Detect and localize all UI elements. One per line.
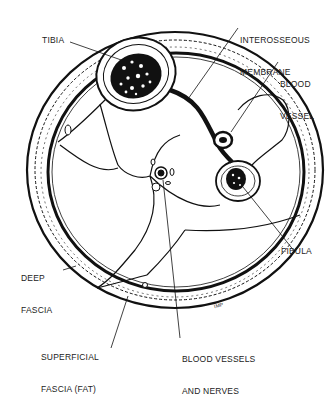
deep-fascia (48, 53, 304, 291)
label-interosseous-line1: INTEROSSEOUS (240, 35, 310, 46)
blood-vessel (214, 132, 232, 148)
label-blood-vessels-nerves: BLOOD VESSELS AND NERVES (182, 333, 255, 398)
label-blood-vessel-line1: BLOOD (280, 79, 314, 90)
label-blood-vessel: BLOOD VESSEL (280, 58, 314, 132)
interosseous-membrane (170, 90, 232, 162)
label-deep-fascia-line2: FASCIA (21, 305, 52, 316)
label-fibula: FIBULA (281, 246, 312, 257)
label-superficial-fascia-line2: FASCIA (FAT) (41, 384, 99, 395)
label-tibia: TIBIA (42, 35, 64, 46)
small-vessel-left (65, 125, 71, 135)
label-superficial-fascia-line1: SUPERFICIAL (41, 352, 99, 363)
label-superficial-fascia: SUPERFICIAL FASCIA (FAT) (41, 331, 99, 398)
fibula-bone (216, 161, 260, 201)
label-deep-fascia: DEEP FASCIA (21, 252, 52, 326)
label-blood-vessel-line2: VESSEL (280, 111, 314, 122)
label-blood-vessels-nerves-line2: AND NERVES (182, 386, 255, 397)
label-deep-fascia-line1: DEEP (21, 273, 52, 284)
label-blood-vessels-nerves-line1: BLOOD VESSELS (182, 354, 255, 365)
